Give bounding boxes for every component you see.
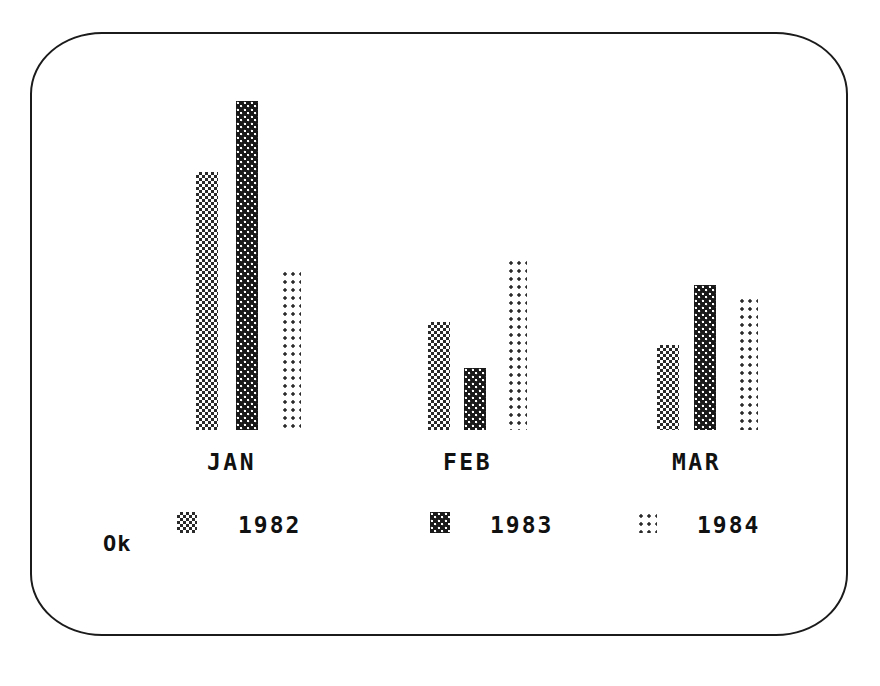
- legend-label-1983: 1983: [490, 512, 553, 538]
- basic-ok-prompt: Ok: [103, 531, 132, 556]
- legend-swatch-1984: [637, 512, 657, 533]
- legend-swatch-1983: [430, 512, 450, 533]
- legend-swatch-1982: [177, 512, 197, 533]
- chart-legend: 198219831984: [0, 0, 880, 686]
- legend-label-1982: 1982: [238, 512, 301, 538]
- legend-label-1984: 1984: [697, 512, 760, 538]
